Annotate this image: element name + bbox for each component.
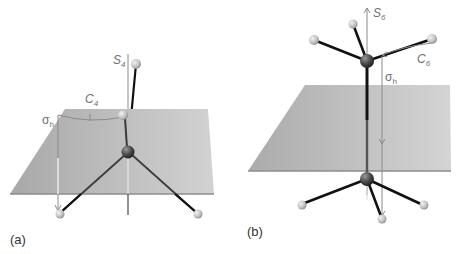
ligand-atom bbox=[298, 201, 307, 210]
panel-label-a: (a) bbox=[10, 232, 26, 247]
s6-label: S6 bbox=[373, 6, 386, 22]
mirror-plane-b bbox=[248, 85, 451, 171]
ligand-atom bbox=[118, 110, 128, 120]
bond-lower-right-below bbox=[175, 194, 197, 213]
ligand-atom bbox=[349, 20, 358, 29]
bond-lower-left-below bbox=[60, 194, 81, 213]
ligand-atom bbox=[131, 59, 141, 69]
ligand-atom bbox=[378, 215, 387, 224]
panel-a: S4 C4 σh (a) bbox=[10, 53, 214, 247]
panel-b: S6 C6 σh (b) bbox=[247, 6, 451, 239]
panel-label-b: (b) bbox=[247, 224, 263, 239]
sigma-h-label-b: σh bbox=[385, 70, 397, 86]
s4-label: S4 bbox=[113, 53, 126, 69]
ligand-atom bbox=[194, 210, 203, 219]
central-atom-a bbox=[122, 146, 135, 159]
mirror-plane-a bbox=[10, 109, 214, 194]
ligand-atom bbox=[420, 201, 429, 210]
c4-label: C4 bbox=[85, 92, 99, 108]
sigma-h-label-a: σh bbox=[42, 113, 54, 129]
symmetry-operations-figure: S4 C4 σh (a) bbox=[0, 0, 462, 254]
ligand-atom bbox=[56, 210, 65, 219]
ligand-atom bbox=[309, 35, 319, 45]
lower-central-atom bbox=[360, 172, 374, 186]
c6-label: C6 bbox=[417, 52, 431, 68]
bond-lower-1 bbox=[302, 179, 367, 204]
upper-central-atom bbox=[360, 54, 374, 68]
ligand-atom bbox=[427, 34, 437, 44]
